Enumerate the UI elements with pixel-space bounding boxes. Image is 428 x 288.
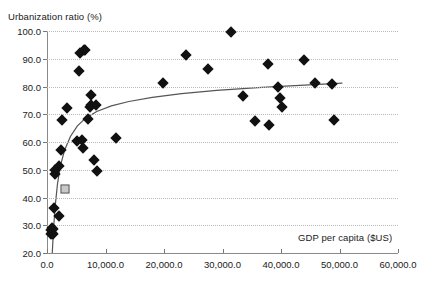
x-tick-label: 0.0 (40, 259, 53, 270)
gridline (47, 114, 398, 115)
scatter-chart: Urbanization ratio (%) GDP per capita ($… (0, 0, 428, 288)
gridline (47, 225, 398, 226)
data-point-square (60, 185, 69, 194)
gridline (47, 142, 398, 143)
x-tick-label: 50,000.0 (321, 259, 358, 270)
gridline (47, 31, 398, 32)
x-tick-label: 10,000.0 (87, 259, 124, 270)
x-tick-mark (398, 249, 399, 253)
x-tick-label: 20,000.0 (146, 259, 183, 270)
x-tick-label: 40,000.0 (263, 259, 300, 270)
x-tick-label: 30,000.0 (204, 259, 241, 270)
gridline (47, 87, 398, 88)
x-tick-label: 60,000.0 (380, 259, 417, 270)
gridline (47, 198, 398, 199)
gridline (47, 59, 398, 60)
plot-area (47, 31, 398, 253)
